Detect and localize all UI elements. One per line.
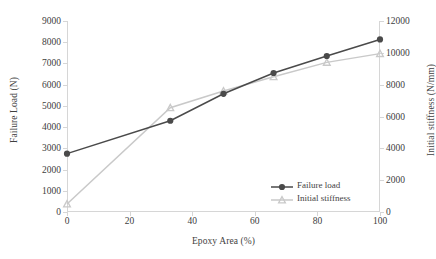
data-point-marker [324,53,330,59]
data-point-marker [220,91,226,97]
y-axis-right-tick [380,117,384,118]
x-axis-title: Epoxy Area (%) [67,236,380,246]
x-axis-tick-label: 40 [187,216,197,226]
legend-item-failure-load[interactable]: Failure load [270,178,351,191]
y-axis-left-tick-label: 6000 [42,80,61,90]
x-axis-tick-label: 100 [373,216,387,226]
y-axis-right-tick [380,85,384,86]
legend-circle-marker-icon [270,179,294,191]
y-axis-right-tick-label: 12000 [386,16,410,26]
y-axis-left-tick-label: 4000 [42,122,61,132]
data-point-marker [64,151,70,157]
y-axis-right-tick-label: 6000 [386,112,405,122]
x-axis-tick-label: 80 [313,216,323,226]
y-axis-left-tick-label: 7000 [42,58,61,68]
x-axis-tick-label: 60 [250,216,260,226]
chart-legend: Failure loadInitial stiffness [270,178,351,204]
x-axis-tick-label: 20 [125,216,135,226]
y-axis-left-tick-label: 5000 [42,101,61,111]
y-axis-left-tick-label: 0 [56,207,61,217]
y-axis-right-tick [380,180,384,181]
legend-triangle-marker-icon [270,192,294,204]
y-axis-right-tick-label: 4000 [386,143,405,153]
legend-label: Initial stiffness [297,193,351,203]
y-axis-right-title: Initial stiffness (N/mm) [426,55,436,165]
data-point-marker [270,70,276,76]
data-point-marker [167,118,173,124]
data-point-marker [377,36,383,42]
y-axis-left-tick-label: 3000 [42,143,61,153]
y-axis-right-tick-label: 8000 [386,80,405,90]
legend-label: Failure load [297,180,340,190]
y-axis-left-tick-label: 8000 [42,37,61,47]
x-axis-tick-label: 0 [65,216,70,226]
y-axis-right-tick-label: 10000 [386,48,410,58]
y-axis-left-tick-label: 1000 [42,186,61,196]
y-axis-right-tick [380,148,384,149]
y-axis-right-tick-label: 2000 [386,175,405,185]
y-axis-left-title: Failure Load (N) [9,65,19,155]
y-axis-left-tick-label: 2000 [42,165,61,175]
legend-item-initial-stiffness[interactable]: Initial stiffness [270,191,351,204]
y-axis-left-tick-label: 9000 [42,16,61,26]
y-axis-right-tick [380,21,384,22]
